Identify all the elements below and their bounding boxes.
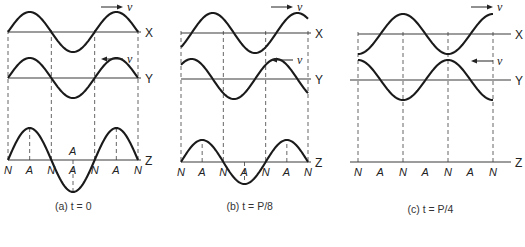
z-wave-label: Z [515, 156, 522, 170]
node-label: N [444, 166, 452, 178]
arrowhead-icon [117, 5, 123, 10]
antinode-label: A [421, 166, 429, 178]
node-label: N [47, 164, 55, 176]
node-label: N [177, 166, 185, 178]
velocity-label-y: v [297, 53, 303, 67]
panel-c: XYZvvNANANAN(c) t = P/4 [350, 0, 523, 215]
antinode-label: A [240, 166, 248, 178]
panel-caption: (a) t = 0 [55, 200, 92, 212]
velocity-label-y: v [127, 52, 133, 66]
node-label: N [4, 164, 12, 176]
velocity-label-x: v [497, 0, 503, 14]
y-wave-label: Y [315, 73, 323, 87]
arrowhead-icon [287, 5, 293, 10]
z-wave-label: Z [315, 156, 322, 170]
node-label: N [354, 166, 362, 178]
antinode-label: A [376, 166, 384, 178]
node-label: N [262, 166, 270, 178]
node-label: N [399, 166, 407, 178]
y-wave-label: Y [515, 74, 523, 88]
node-label: N [489, 166, 497, 178]
velocity-label-x: v [297, 0, 303, 14]
antinode-label: A [68, 164, 76, 176]
standing-wave-diagram: XYZvvNANANANA(a) t = 0XYZvvNANANAN(b) t … [0, 0, 525, 247]
antinode-label: A [25, 164, 33, 176]
y-wave-label: Y [145, 72, 153, 86]
panel-caption: (b) t = P/8 [227, 200, 274, 212]
arrowhead-icon [487, 5, 493, 10]
panel-caption: (c) t = P/4 [408, 203, 454, 215]
node-label: N [219, 166, 227, 178]
velocity-label-y: v [497, 54, 503, 68]
arrowhead-icon [471, 59, 477, 64]
antinode-label: A [466, 166, 474, 178]
panel-b: XYZvvNANANAN(b) t = P/8 [177, 0, 323, 212]
x-wave-label: X [145, 26, 153, 40]
velocity-label-x: v [127, 0, 133, 14]
arrowhead-icon [101, 57, 107, 62]
panel-a: XYZvvNANANANA(a) t = 0 [4, 0, 153, 212]
node-label: N [134, 164, 142, 176]
antinode-label: A [111, 164, 119, 176]
x-wave-label: X [515, 28, 523, 42]
z-wave-label: Z [145, 154, 152, 168]
antinode-label: A [282, 166, 290, 178]
node-label: N [304, 166, 312, 178]
antinode-label-mid: A [68, 145, 76, 157]
node-label: N [91, 164, 99, 176]
x-wave-label: X [315, 27, 323, 41]
antinode-label: A [197, 166, 205, 178]
